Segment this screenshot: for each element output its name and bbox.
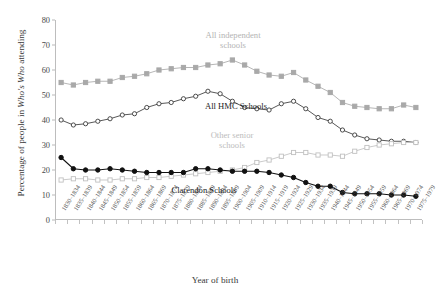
data-point (132, 169, 136, 173)
data-point (59, 80, 63, 84)
data-point (83, 122, 87, 126)
data-point (279, 173, 283, 177)
data-point (145, 175, 149, 179)
y-axis-tick-label: 40 (42, 116, 50, 125)
data-point (181, 65, 185, 69)
data-point (414, 105, 418, 109)
data-point (108, 178, 112, 182)
data-point (145, 170, 149, 174)
data-point (353, 104, 357, 108)
data-point (316, 84, 320, 88)
data-point (402, 140, 406, 144)
data-point (59, 155, 63, 159)
y-axis-title: Percentage of people in Who's Who attend… (16, 3, 26, 223)
data-point (132, 177, 136, 181)
data-point (230, 58, 234, 62)
data-point (132, 74, 136, 78)
data-point (414, 140, 418, 144)
data-point (157, 175, 161, 179)
data-point (194, 65, 198, 69)
data-point (316, 115, 320, 119)
data-point (243, 63, 247, 67)
data-point (389, 142, 393, 146)
data-point (71, 123, 75, 127)
y-axis-tick-label: 60 (42, 66, 50, 75)
data-point (108, 167, 112, 171)
data-point (71, 83, 75, 87)
data-point (353, 149, 357, 153)
data-point (353, 133, 357, 137)
data-point (291, 150, 295, 154)
data-point (316, 153, 320, 157)
annotation-clarendon-schools: Clarendon Schools (152, 186, 256, 196)
data-point (255, 169, 259, 173)
data-point (279, 74, 283, 78)
data-point (340, 128, 344, 132)
y-axis-title-prefix: Percentage of people in (16, 108, 26, 197)
y-axis-tick-label: 0 (46, 216, 50, 225)
data-point (96, 178, 100, 182)
data-point (108, 117, 112, 121)
data-point (157, 102, 161, 106)
data-point (181, 170, 185, 174)
data-point (59, 178, 63, 182)
data-point (96, 168, 100, 172)
data-point (120, 177, 124, 181)
data-point (377, 107, 381, 111)
data-point (194, 172, 198, 176)
annotation-other-senior-schools: Other senior schools (196, 131, 268, 150)
data-point (169, 67, 173, 71)
data-point (365, 137, 369, 141)
data-point (230, 169, 234, 173)
data-point (304, 107, 308, 111)
data-point (157, 170, 161, 174)
data-point (255, 160, 259, 164)
data-point (120, 75, 124, 79)
data-point (242, 169, 246, 173)
data-point (402, 103, 406, 107)
data-point (206, 89, 210, 93)
data-point (304, 150, 308, 154)
data-point (291, 175, 295, 179)
data-point (291, 70, 295, 74)
data-point (279, 154, 283, 158)
data-point (328, 119, 332, 123)
data-point (96, 119, 100, 123)
data-point (218, 62, 222, 66)
data-point (304, 78, 308, 82)
data-point (83, 177, 87, 181)
annotation-other-line-2: schools (196, 141, 268, 151)
y-axis-title-suffix: attending (16, 30, 26, 67)
data-point (267, 170, 271, 174)
data-point (71, 167, 75, 171)
data-point (132, 112, 136, 116)
data-point (389, 107, 393, 111)
data-point (71, 177, 75, 181)
data-point (218, 92, 222, 96)
data-point (267, 158, 271, 162)
data-point (255, 69, 259, 73)
annotation-all-independent-schools: All independent schools (183, 31, 283, 50)
x-axis-tick-labels: 1830–18341835–18391840–18441845–18491850… (55, 206, 422, 276)
x-axis-tick-mark (422, 220, 423, 224)
y-axis-tick-label: 30 (42, 141, 50, 150)
data-point (291, 99, 295, 103)
data-point (83, 168, 87, 172)
data-point (206, 63, 210, 67)
data-point (145, 105, 149, 109)
y-axis-tick-label: 50 (42, 91, 50, 100)
data-point (145, 72, 149, 76)
data-point (218, 168, 222, 172)
data-point (365, 105, 369, 109)
data-point (169, 100, 173, 104)
annotation-independent-line-2: schools (183, 41, 283, 51)
data-point (340, 100, 344, 104)
data-point (194, 94, 198, 98)
y-axis-title-italic: Who's Who (16, 66, 26, 108)
annotation-all-hmc-schools: All HMC Schools (192, 102, 280, 112)
data-point (267, 73, 271, 77)
data-point (328, 90, 332, 94)
data-point (83, 80, 87, 84)
data-point (120, 168, 124, 172)
